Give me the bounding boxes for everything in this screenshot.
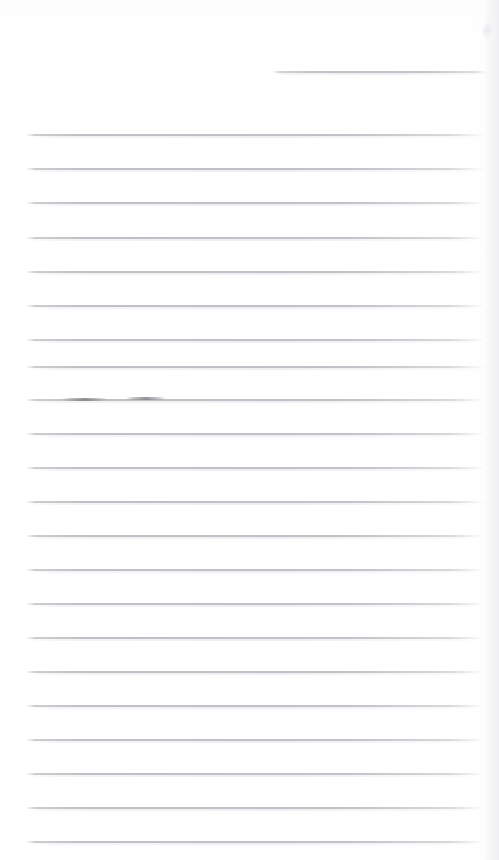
ruled-line (26, 637, 485, 639)
ruled-line (26, 366, 485, 368)
ruled-line (26, 433, 485, 435)
header-rule (272, 71, 487, 73)
ruled-line (26, 569, 485, 571)
ruled-line (26, 501, 485, 503)
ink-mark (62, 398, 108, 401)
ruled-line (26, 202, 485, 204)
ruled-line (26, 168, 485, 170)
scan-tone-overlay (0, 0, 499, 860)
page-edge-shadow (483, 0, 499, 860)
ruled-line (26, 134, 485, 136)
ruled-line (26, 739, 485, 741)
ruled-line (26, 467, 485, 469)
ruled-line (26, 399, 485, 401)
ruled-line (26, 237, 485, 239)
ruled-line (26, 807, 485, 809)
ruled-line (26, 603, 485, 605)
ruled-line (26, 671, 485, 673)
ruled-line (26, 705, 485, 707)
scanned-page (0, 0, 499, 860)
scan-smudge-mark (482, 22, 495, 40)
ruled-line (26, 773, 485, 775)
ruled-line (26, 535, 485, 537)
ruled-line (26, 271, 485, 273)
ruled-line (26, 305, 485, 307)
ink-mark (126, 397, 166, 400)
ruled-line (26, 339, 485, 341)
ruled-line (26, 841, 485, 843)
